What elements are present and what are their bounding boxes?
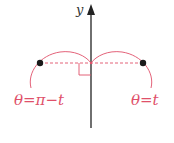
right-point bbox=[140, 60, 146, 66]
diagram: y θ=π−t θ=t bbox=[0, 0, 174, 143]
left-arc bbox=[30, 52, 91, 88]
origin-point bbox=[90, 62, 92, 64]
y-axis-arrow-icon bbox=[87, 4, 95, 15]
y-axis-label: y bbox=[75, 2, 84, 17]
left-point bbox=[37, 60, 43, 66]
right-angle-label: θ=t bbox=[131, 91, 160, 109]
right-arc bbox=[91, 52, 152, 88]
left-angle-label: θ=π−t bbox=[14, 91, 65, 109]
right-angle-mark bbox=[79, 63, 91, 75]
diagram-canvas: y θ=π−t θ=t bbox=[0, 0, 174, 143]
